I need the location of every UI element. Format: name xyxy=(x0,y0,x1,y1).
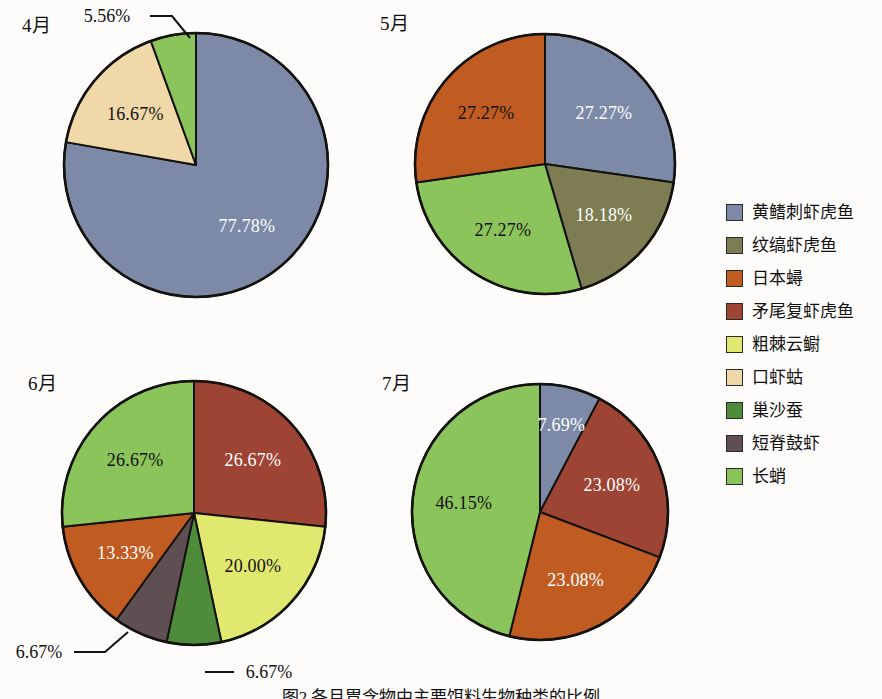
legend-item-label: 巢沙蚕 xyxy=(752,402,803,419)
pie-callout-label: 6.67% xyxy=(246,662,293,683)
pie-title-3: 6月 xyxy=(28,368,58,395)
legend-item-3[interactable]: 日本蟳 xyxy=(726,262,876,295)
legend-item-label: 粗棘云鳚 xyxy=(752,336,820,353)
pie-chart-3 xyxy=(56,375,332,651)
legend-item-label: 黄鳍刺虾虎鱼 xyxy=(752,204,854,221)
pie-slice xyxy=(62,381,194,527)
legend-item-4[interactable]: 矛尾复虾虎鱼 xyxy=(726,295,876,328)
legend-item-7[interactable]: 巢沙蚕 xyxy=(726,394,876,427)
legend-item-8[interactable]: 短脊鼓虾 xyxy=(726,427,876,460)
legend-swatch-icon xyxy=(726,204,743,221)
pie-slice xyxy=(415,34,545,183)
legend-swatch-icon xyxy=(726,402,743,419)
pie-title-2: 5月 xyxy=(380,8,410,35)
legend-item-label: 日本蟳 xyxy=(752,270,803,287)
pie-callout-label: 6.67% xyxy=(16,642,63,663)
legend-swatch-icon xyxy=(726,270,743,287)
pie-chart-2 xyxy=(409,28,681,300)
legend-swatch-icon xyxy=(726,303,743,320)
figure-caption: 图2 各月胃含物中主要饵料生物种类的比例 xyxy=(0,683,882,699)
legend-item-9[interactable]: 长蛸 xyxy=(726,460,876,493)
pie-chart-1 xyxy=(58,27,334,303)
legend-swatch-icon xyxy=(726,369,743,386)
legend-swatch-icon xyxy=(726,336,743,353)
pie-callout-label: 5.56% xyxy=(84,6,131,27)
legend-swatch-icon xyxy=(726,468,743,485)
legend-item-label: 口虾蛄 xyxy=(752,369,803,386)
pie-slice xyxy=(545,34,675,183)
pie-slice xyxy=(194,381,326,527)
pie-chart-4 xyxy=(406,378,674,646)
legend: 黄鳍刺虾虎鱼纹缟虾虎鱼日本蟳矛尾复虾虎鱼粗棘云鳚口虾蛄巢沙蚕短脊鼓虾长蛸 xyxy=(726,196,876,493)
legend-item-2[interactable]: 纹缟虾虎鱼 xyxy=(726,229,876,262)
legend-item-label: 长蛸 xyxy=(752,468,786,485)
pie-title-1: 4月 xyxy=(22,10,52,37)
legend-swatch-icon xyxy=(726,435,743,452)
legend-item-1[interactable]: 黄鳍刺虾虎鱼 xyxy=(726,196,876,229)
legend-swatch-icon xyxy=(726,237,743,254)
legend-item-label: 矛尾复虾虎鱼 xyxy=(752,303,854,320)
legend-item-label: 纹缟虾虎鱼 xyxy=(752,237,837,254)
legend-item-6[interactable]: 口虾蛄 xyxy=(726,361,876,394)
legend-item-label: 短脊鼓虾 xyxy=(752,435,820,452)
legend-item-5[interactable]: 粗棘云鳚 xyxy=(726,328,876,361)
